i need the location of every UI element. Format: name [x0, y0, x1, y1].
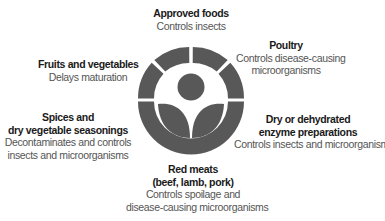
- ring-top-left-segment: [154, 47, 189, 72]
- spices-title-line2: dry vegetable seasonings: [4, 124, 132, 137]
- ring-top-right-segment: [193, 47, 228, 72]
- fruits-vegetables-title: Fruits and vegetables: [38, 58, 138, 71]
- approved-foods-desc: Controls insects: [141, 20, 241, 33]
- enzyme-desc: Controls insects and microorganisms: [234, 138, 382, 151]
- spices-desc-line2: insects and microorganisms: [4, 149, 132, 162]
- label-poultry: Poultry Controls disease-causing microor…: [236, 39, 336, 77]
- spices-title-line1: Spices and: [4, 111, 132, 124]
- label-enzyme-preparations: Dry or dehydrated enzyme preparations Co…: [234, 113, 382, 151]
- label-spices: Spices and dry vegetable seasonings Deco…: [4, 111, 132, 161]
- red-meats-title-line2: (beef, lamb, pork): [126, 176, 260, 189]
- red-meats-desc-line1: Controls spoilage and: [126, 188, 260, 201]
- label-approved-foods: Approved foods Controls insects: [141, 7, 241, 32]
- red-meats-desc-line2: disease-causing microorganisms: [126, 201, 260, 214]
- center-dot: [178, 74, 205, 101]
- enzyme-title-line2: enzyme preparations: [234, 126, 382, 139]
- label-red-meats: Red meats (beef, lamb, pork) Controls sp…: [126, 163, 260, 213]
- ring-lower-segment: [138, 102, 244, 155]
- red-meats-title-line1: Red meats: [126, 163, 260, 176]
- label-fruits-vegetables: Fruits and vegetables Delays maturation: [38, 58, 138, 83]
- spices-desc-line1: Decontaminates and controls: [4, 136, 132, 149]
- poultry-desc-line1: Controls disease-causing: [236, 52, 336, 65]
- poultry-desc-line2: microorganisms: [236, 64, 336, 77]
- poultry-title: Poultry: [236, 39, 336, 52]
- ring-upper-left-segment: [138, 63, 164, 99]
- enzyme-title-line1: Dry or dehydrated: [234, 113, 382, 126]
- approved-foods-title: Approved foods: [141, 7, 241, 20]
- fruits-vegetables-desc: Delays maturation: [38, 71, 138, 84]
